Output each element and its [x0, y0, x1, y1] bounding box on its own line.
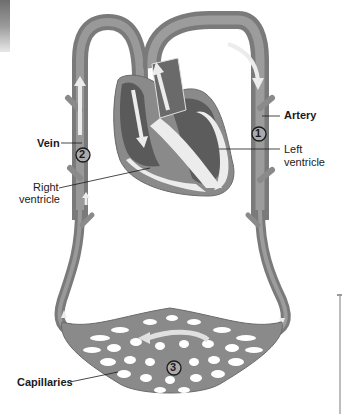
left-ventricle-label-line1: Left — [284, 143, 302, 156]
marker-2-label: 2 — [79, 148, 85, 161]
vein-label: Vein — [37, 137, 60, 150]
left-ventricle-label-line2: ventricle — [284, 156, 325, 169]
right-ventricle-label-line2: ventricle — [19, 193, 60, 206]
circulation-diagram: 1 2 3 Artery Left ventricle Vein Right v… — [0, 0, 342, 414]
artery-label: Artery — [284, 109, 316, 122]
marker-1-label: 1 — [255, 127, 261, 140]
heart — [114, 58, 234, 196]
capillaries-label: Capillaries — [17, 376, 73, 389]
marker-3-label: 3 — [170, 361, 176, 374]
diagram-artwork — [0, 0, 342, 414]
capillary-bed — [62, 308, 283, 393]
